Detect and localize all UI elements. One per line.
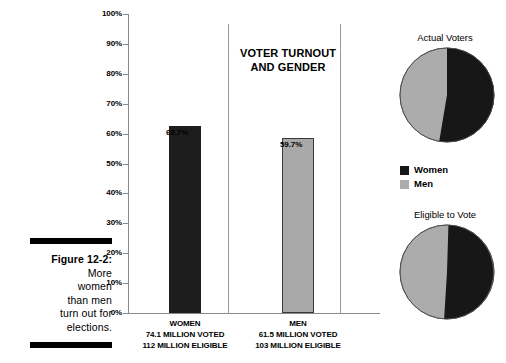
group-label-women: WOMEN 74.1 MILLION VOTED 112 MILLION ELI… — [129, 319, 241, 351]
bar-men — [282, 138, 314, 313]
bar-women — [169, 126, 201, 313]
group-label-women-eligible: 112 MILLION ELIGIBLE — [129, 341, 241, 352]
y-tick-label-90: 90% — [106, 40, 122, 48]
chart-title: VOTER TURNOUT AND GENDER — [236, 47, 340, 74]
legend-item-women: Women — [400, 165, 490, 175]
group-label-women-name: WOMEN — [129, 319, 241, 330]
figure-caption-line-5: elections. — [67, 321, 112, 333]
y-axis-labels: 100% 90% 80% 70% 60% 50% 40% 30% 20% 10%… — [96, 14, 122, 313]
y-axis-line — [128, 14, 129, 313]
legend-swatch-women-icon — [400, 166, 409, 175]
legend-item-men: Men — [400, 179, 490, 189]
group-label-men-voted: 61.5 MILLION VOTED — [242, 330, 354, 341]
pie-slice-women-voters — [439, 48, 494, 142]
pie-actual-voters-graphic — [399, 47, 495, 143]
caption-rule-bottom — [30, 342, 112, 348]
y-tick-label-10: 10% — [106, 279, 122, 287]
pie-legend: Women Men — [400, 165, 490, 193]
pie-title-actual-voters: Actual Voters — [393, 32, 497, 43]
bar-value-women: 63.7% — [166, 128, 188, 137]
pie-charts-panel: Actual Voters Women Men Eligible to Vote — [388, 32, 506, 362]
y-tick-label-70: 70% — [106, 100, 122, 108]
y-tick-label-80: 80% — [106, 70, 122, 78]
group-label-women-voted: 74.1 MILLION VOTED — [129, 330, 241, 341]
panel-divider-right — [340, 24, 341, 313]
y-tick-label-30: 30% — [106, 219, 122, 227]
pie-slice-women-eligible — [444, 225, 493, 319]
pie-eligible-graphic — [399, 224, 495, 320]
group-label-men-eligible: 103 MILLION ELIGIBLE — [242, 341, 354, 352]
legend-label-men: Men — [414, 179, 433, 189]
y-tick-label-50: 50% — [106, 160, 122, 168]
pie-chart-actual-voters: Actual Voters — [388, 32, 506, 143]
y-tick-label-60: 60% — [106, 130, 122, 138]
pie-title-eligible-to-vote: Eligible to Vote — [393, 209, 497, 220]
y-tick-label-20: 20% — [106, 249, 122, 257]
legend-swatch-men-icon — [400, 180, 409, 189]
group-label-men: MEN 61.5 MILLION VOTED 103 MILLION ELIGI… — [242, 319, 354, 351]
pie-chart-eligible-to-vote: Eligible to Vote — [388, 209, 506, 320]
bar-chart: 100% 90% 80% 70% 60% 50% 40% 30% 20% 10%… — [96, 14, 381, 319]
bar-value-men: 59.7% — [280, 140, 302, 149]
y-tick-label-0: 0% — [111, 309, 122, 317]
panel-divider-middle — [228, 24, 229, 313]
group-label-men-name: MEN — [242, 319, 354, 330]
y-tick-label-40: 40% — [106, 189, 122, 197]
y-tick-label-100: 100% — [102, 10, 122, 18]
legend-label-women: Women — [414, 165, 448, 175]
x-axis-line — [128, 313, 380, 314]
